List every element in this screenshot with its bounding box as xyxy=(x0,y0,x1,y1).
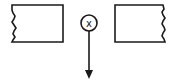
diagram-canvas: x xyxy=(0,0,176,81)
force-arrow-down-icon xyxy=(85,31,93,79)
conductor-symbol: x xyxy=(86,18,92,29)
left-block xyxy=(12,5,63,42)
right-block xyxy=(115,5,165,42)
conductor-into-page-icon: x xyxy=(81,15,97,31)
